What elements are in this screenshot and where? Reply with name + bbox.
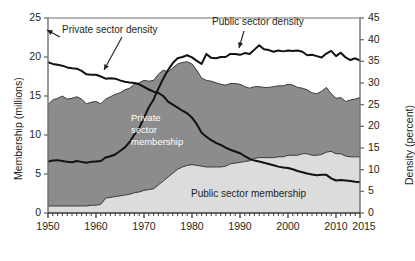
- x-tick-1950: 1950: [34, 221, 62, 232]
- y-tick-25: 25: [0, 12, 41, 23]
- x-tick-2000: 2000: [274, 221, 302, 232]
- annotation-public-sector-density: Public sector density: [212, 17, 304, 27]
- annotation-line: membership: [131, 136, 183, 148]
- y2-tick-25: 25: [368, 99, 380, 110]
- y2-tick-45: 45: [368, 12, 380, 23]
- y-axis-title: Membership (millions): [13, 77, 24, 180]
- y2-tick-35: 35: [368, 55, 380, 66]
- y2-tick-40: 40: [368, 34, 380, 45]
- y2-tick-5: 5: [368, 185, 374, 196]
- y2-axis-title: Density (percent): [404, 105, 415, 185]
- y2-tick-30: 30: [368, 77, 380, 88]
- annotation-private-sector-density: Private sector density: [62, 25, 158, 35]
- y2-tick-10: 10: [368, 164, 380, 175]
- x-tick-1960: 1960: [82, 221, 110, 232]
- x-tick-1990: 1990: [226, 221, 254, 232]
- y-tick-20: 20: [0, 51, 41, 62]
- annotation-private-sector-membership: Privatesectormembership: [131, 112, 183, 148]
- annotation-arrows: [47, 30, 244, 70]
- y2-tick-0: 0: [368, 207, 374, 218]
- y2-tick-15: 15: [368, 142, 380, 153]
- annotation-public-sector-membership: Public sector membership: [191, 189, 306, 199]
- x-tick-2010: 2010: [322, 221, 350, 232]
- annotation-line: Private: [131, 112, 183, 124]
- y-tick-0: 0: [0, 207, 41, 218]
- y2-tick-20: 20: [368, 120, 380, 131]
- annotation-line: sector: [131, 124, 183, 136]
- x-tick-1980: 1980: [178, 221, 206, 232]
- x-tick-1970: 1970: [130, 221, 158, 232]
- x-tick-2015: 2015: [350, 221, 378, 232]
